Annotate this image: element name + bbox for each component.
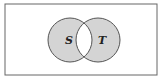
set-s-label: S — [65, 34, 73, 47]
venn-diagram: S T — [0, 0, 164, 78]
set-t-label: T — [98, 34, 107, 47]
